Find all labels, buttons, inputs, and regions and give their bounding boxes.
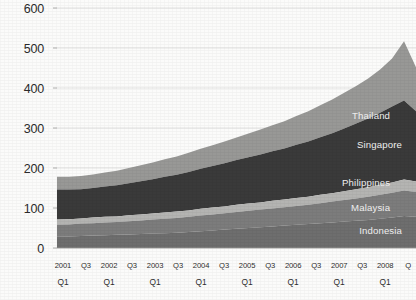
x-tick-primary-10: 2006 [285,261,302,270]
y-tick-300: 300 [24,122,45,136]
x-tick-primary-7: Q3 [219,261,229,270]
x-tick-primary-11: Q3 [311,261,321,270]
y-tick-100: 100 [24,202,45,216]
y-tick-200: 200 [24,162,45,176]
x-tick-secondary-8: Q1 [242,277,254,287]
x-tick-primary-0: 2001 [55,261,72,270]
y-axis-tick-labels: 0100200300400500600 [24,2,57,256]
y-tick-500: 500 [24,42,45,56]
y-tick-600: 600 [24,2,45,16]
x-tick-secondary-4: Q1 [149,277,161,287]
y-tick-400: 400 [24,82,45,96]
x-tick-primary-9: Q3 [265,261,275,270]
x-tick-primary-12: 2007 [331,261,348,270]
x-tick-secondary-2: Q1 [103,277,115,287]
x-tick-primary-15: Q [405,261,411,270]
x-tick-secondary-0: Q1 [57,277,69,287]
x-tick-primary-1: Q3 [81,261,91,270]
x-tick-primary-6: 2004 [193,261,210,270]
x-tick-primary-2: 2002 [101,261,118,270]
x-tick-secondary-14: Q1 [380,277,392,287]
x-axis-tick-labels: 2001Q1Q32002Q1Q32003Q1Q32004Q1Q32005Q1Q3… [55,261,412,287]
x-tick-primary-5: Q3 [173,261,183,270]
series-label-thailand: Thailand [352,110,390,121]
series-label-singapore: Singapore [357,139,402,150]
series-label-philippines: Philippines [342,177,390,188]
y-tick-0: 0 [37,242,44,256]
x-tick-primary-14: 2008 [377,261,394,270]
series-label-malaysia: Malaysia [351,202,391,213]
x-tick-primary-3: Q3 [127,261,137,270]
x-tick-secondary-10: Q1 [288,277,300,287]
x-tick-secondary-12: Q1 [334,277,346,287]
chart-canvas: 0100200300400500600 2001Q1Q32002Q1Q32003… [0,0,416,300]
x-tick-primary-13: Q3 [357,261,367,270]
x-tick-primary-4: 2003 [147,261,164,270]
series-label-indonesia: Indonesia [359,225,402,236]
x-tick-primary-8: 2005 [239,261,256,270]
stacked-area-chart: 0100200300400500600 2001Q1Q32002Q1Q32003… [0,0,416,300]
x-tick-secondary-6: Q1 [195,277,207,287]
